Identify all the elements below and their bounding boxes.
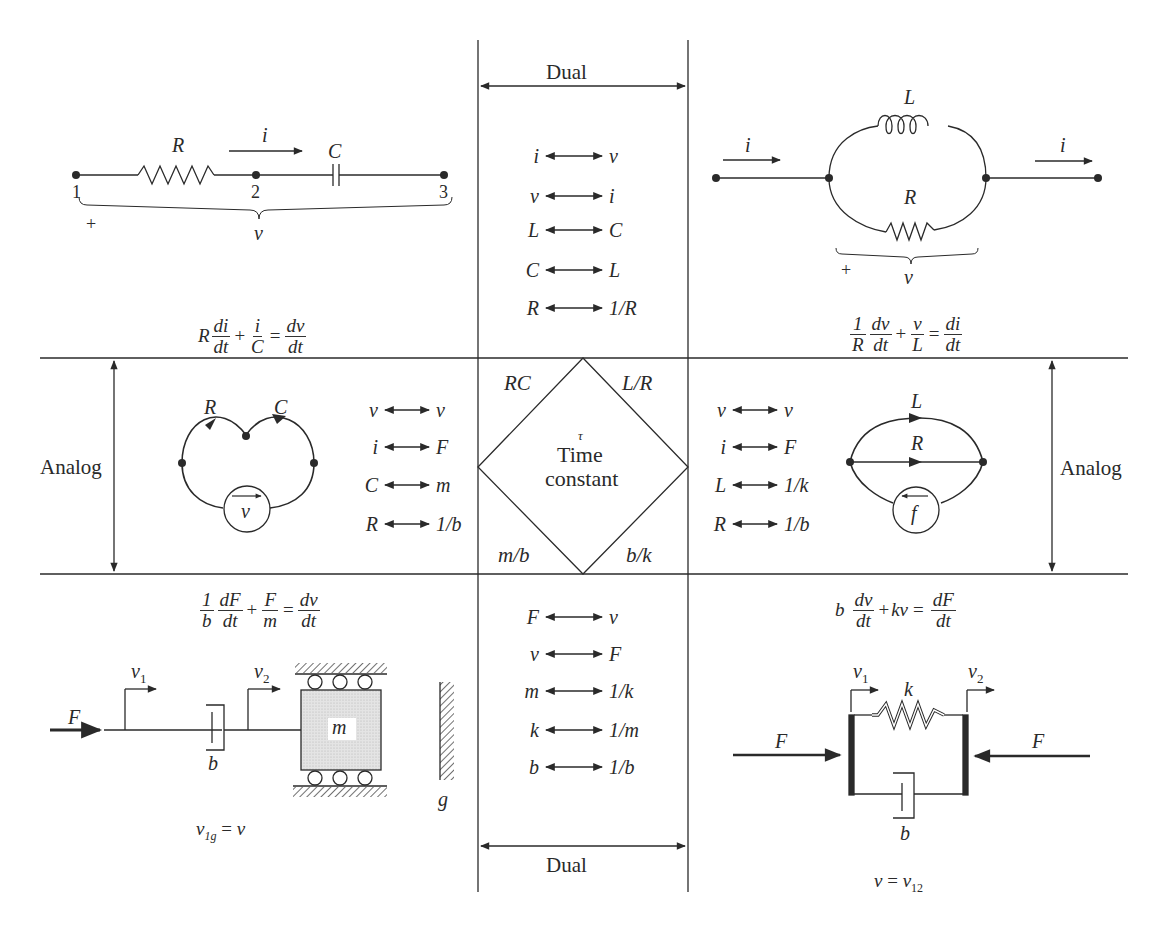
spring-damper-system bbox=[733, 690, 1090, 818]
rc-node-2: 2 bbox=[251, 182, 260, 203]
tau-rc: RC bbox=[504, 371, 531, 396]
double-arrow-icon bbox=[730, 473, 780, 497]
double-arrow-icon bbox=[543, 642, 605, 666]
rl-voltage-label: v bbox=[904, 266, 913, 289]
tau-b-over-k: b/k bbox=[626, 543, 652, 568]
tau-l-over-r: L/R bbox=[622, 371, 652, 396]
dual-pair: vF bbox=[513, 642, 639, 666]
rl-resistor-label: R bbox=[904, 186, 916, 209]
double-arrow-icon bbox=[730, 512, 780, 536]
graph-right-r-label: R bbox=[911, 432, 923, 455]
graph-right-l-label: L bbox=[911, 390, 922, 413]
double-arrow-icon bbox=[543, 718, 605, 742]
double-arrow-icon bbox=[543, 258, 605, 282]
series-rc-circuit bbox=[76, 151, 452, 219]
sd-spring-label: k bbox=[904, 678, 913, 701]
dual-pair: iv bbox=[513, 144, 639, 168]
analog-left-label: Analog bbox=[40, 455, 102, 480]
dual-pair: b1/b bbox=[513, 755, 639, 779]
analog-right-label: Analog bbox=[1060, 456, 1122, 481]
analog-pair: iF bbox=[700, 435, 814, 459]
sd-damper-label: b bbox=[900, 822, 910, 845]
mass-damper-equation: 1b dFdt + Fm = dvdt bbox=[198, 590, 322, 631]
mass-damper-system bbox=[50, 663, 454, 797]
double-arrow-icon bbox=[543, 296, 605, 320]
dual-pair: m1/k bbox=[513, 679, 639, 703]
analog-pair: vv bbox=[700, 398, 814, 422]
graph-left-source-label: v bbox=[241, 500, 250, 523]
rc-plus-sign: + bbox=[86, 214, 96, 235]
time-constant-line2: constant bbox=[545, 466, 618, 492]
rc-resistor-label: R bbox=[172, 134, 184, 157]
graph-left-c-label: C bbox=[274, 396, 287, 419]
dual-pair: vi bbox=[513, 184, 639, 208]
double-arrow-icon bbox=[382, 512, 432, 536]
analog-pair: Cm bbox=[352, 473, 466, 497]
sd-v1-label: v1 bbox=[853, 660, 868, 687]
md-mass-label: m bbox=[332, 716, 346, 739]
double-arrow-icon bbox=[543, 144, 605, 168]
md-force-label: F bbox=[68, 706, 80, 729]
rc-equation: R didt + iC = dvdt bbox=[198, 316, 308, 357]
double-arrow-icon bbox=[543, 218, 605, 242]
double-arrow-icon bbox=[382, 473, 432, 497]
dual-bottom-label: Dual bbox=[546, 853, 587, 878]
dual-pair: LC bbox=[513, 218, 639, 242]
double-arrow-icon bbox=[382, 398, 432, 422]
dual-pair: CL bbox=[513, 258, 639, 282]
sd-v2-label: v2 bbox=[968, 660, 983, 687]
double-arrow-icon bbox=[543, 184, 605, 208]
rc-capacitor-label: C bbox=[328, 140, 341, 163]
spring-damper-equation: b dvdt + kv = dFdt bbox=[835, 590, 958, 631]
md-v2-label: v2 bbox=[254, 660, 269, 687]
graph-left-r-label: R bbox=[204, 396, 216, 419]
rl-current-in-label: i bbox=[745, 134, 751, 157]
double-arrow-icon bbox=[543, 605, 605, 629]
analog-pair: R1/b bbox=[700, 512, 814, 536]
sd-relation: v = v12 bbox=[874, 870, 923, 896]
double-arrow-icon bbox=[543, 679, 605, 703]
rl-plus-sign: + bbox=[841, 260, 851, 281]
md-damper-label: b bbox=[208, 752, 218, 775]
time-constant-line1: Time bbox=[557, 442, 603, 468]
graph-right-source-label: f bbox=[911, 502, 917, 525]
sd-force-left-label: F bbox=[775, 730, 787, 753]
analog-pair: R1/b bbox=[352, 512, 466, 536]
rc-voltage-label: v bbox=[254, 222, 263, 245]
rc-node-1: 1 bbox=[72, 182, 81, 203]
rc-node-3: 3 bbox=[439, 182, 448, 203]
rc-current-label: i bbox=[262, 124, 268, 147]
dual-pair: Fv bbox=[513, 605, 639, 629]
dual-top-label: Dual bbox=[546, 60, 587, 85]
analog-pair: L1/k bbox=[700, 473, 814, 497]
dual-pair: k1/m bbox=[513, 718, 639, 742]
tau-m-over-b: m/b bbox=[498, 543, 530, 568]
rl-equation: 1R dvdt + vL = didt bbox=[848, 314, 964, 355]
md-ground-label: g bbox=[438, 788, 448, 811]
md-v1-label: v1 bbox=[131, 660, 146, 687]
double-arrow-icon bbox=[382, 435, 432, 459]
double-arrow-icon bbox=[543, 755, 605, 779]
dual-pair: R1/R bbox=[513, 296, 639, 320]
rl-current-out-label: i bbox=[1060, 134, 1066, 157]
analog-pair: iF bbox=[352, 435, 466, 459]
md-relation: v1g = v bbox=[196, 818, 245, 844]
rl-inductor-label: L bbox=[904, 86, 915, 109]
double-arrow-icon bbox=[730, 398, 780, 422]
double-arrow-icon bbox=[730, 435, 780, 459]
sd-force-right-label: F bbox=[1032, 730, 1044, 753]
analog-pair: vv bbox=[352, 398, 466, 422]
